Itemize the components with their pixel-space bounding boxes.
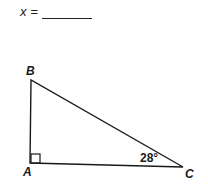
vertex-label-b: B: [26, 64, 35, 78]
right-triangle-diagram: B A C 28°: [0, 0, 208, 191]
right-angle-marker-icon: [31, 154, 40, 163]
vertex-label-a: A: [22, 165, 32, 179]
angle-c-label: 28°: [140, 151, 158, 165]
triangle-abc: [30, 80, 183, 167]
vertex-label-c: C: [185, 167, 194, 181]
